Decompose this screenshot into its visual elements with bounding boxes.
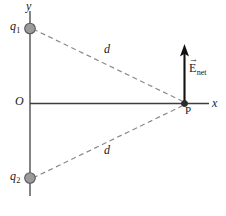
distance-label-upper: d bbox=[104, 43, 110, 55]
charge-marker-q2 bbox=[25, 173, 36, 184]
point-p-label: P bbox=[185, 105, 191, 116]
y-axis-label: y bbox=[26, 0, 31, 12]
distance-label-lower: d bbox=[104, 144, 110, 156]
electric-field-diagram: y x O q1 q2 d d P →Enet bbox=[0, 0, 226, 216]
field-vector-arrow bbox=[180, 44, 189, 103]
distance-line-lower bbox=[33, 106, 182, 178]
charge-label-q2: q2 bbox=[10, 170, 20, 182]
x-axis-label: x bbox=[212, 97, 217, 109]
charge-label-q2-subscript: 2 bbox=[16, 176, 20, 185]
field-vector-label: →Enet bbox=[189, 62, 206, 74]
origin-label: O bbox=[15, 95, 24, 107]
field-vector-subscript: net bbox=[197, 68, 207, 77]
charge-label-q1-subscript: 1 bbox=[16, 26, 20, 35]
diagram-canvas bbox=[0, 0, 226, 216]
charge-label-q1: q1 bbox=[10, 20, 20, 32]
distance-line-upper bbox=[33, 29, 182, 101]
charge-marker-q1 bbox=[25, 23, 36, 34]
vector-arrow-accent-icon: → bbox=[189, 57, 197, 62]
